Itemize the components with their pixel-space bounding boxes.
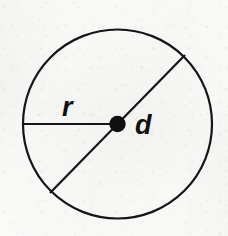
center-point-dot [109, 116, 125, 132]
radius-label: r [62, 92, 74, 122]
circle-diagram-figure: Circle showing radius r and diameter d r… [0, 0, 228, 236]
circle-diagram-canvas: Circle showing radius r and diameter d r… [0, 0, 228, 236]
diameter-label: d [135, 110, 152, 140]
